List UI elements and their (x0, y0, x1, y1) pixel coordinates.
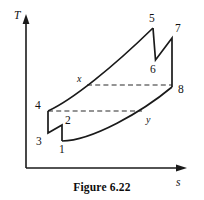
temperature-axis-label: T (14, 9, 22, 21)
state-label-8: 8 (178, 83, 184, 95)
curve-1-to-8 (62, 87, 172, 141)
figure-caption: Figure 6.22 (0, 181, 204, 193)
state-label-3: 3 (36, 135, 42, 147)
state-label-2: 2 (65, 114, 71, 126)
state-label-x: x (76, 73, 82, 84)
state-label-7: 7 (175, 22, 181, 34)
curve-5-6-7-8 (153, 28, 172, 87)
temperature-axis-arrowhead (23, 14, 30, 24)
state-label-6: 6 (150, 63, 156, 75)
state-label-1: 1 (59, 143, 65, 155)
curve-4-3-2-1 (48, 111, 62, 141)
entropy-axis-arrowhead (176, 164, 187, 171)
isotherm-dashed-lines (48, 85, 172, 111)
state-point-labels: 1 2 3 4 5 6 7 8 x y (35, 12, 184, 155)
figure-container: T s 1 2 3 4 5 6 7 8 x (0, 0, 204, 200)
curve-4-to-5 (48, 28, 153, 111)
state-label-y: y (145, 114, 151, 125)
state-label-5: 5 (149, 12, 155, 24)
ts-diagram: T s 1 2 3 4 5 6 7 8 x (0, 0, 204, 200)
state-label-4: 4 (35, 99, 41, 111)
